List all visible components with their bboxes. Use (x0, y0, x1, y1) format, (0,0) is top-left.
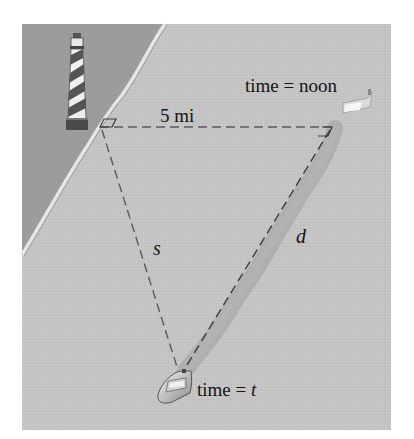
diagram-canvas (0, 0, 414, 439)
label-time-t: time = t (197, 380, 256, 399)
label-d: d (296, 226, 306, 246)
label-time-noon: time = noon (245, 76, 337, 95)
label-s: s (153, 238, 161, 258)
label-time-t-var: t (251, 379, 256, 400)
label-time-t-prefix: time = (197, 379, 251, 400)
label-distance-5mi: 5 mi (160, 106, 194, 125)
related-rates-diagram: time = noon 5 mi s d time = t (0, 0, 414, 439)
